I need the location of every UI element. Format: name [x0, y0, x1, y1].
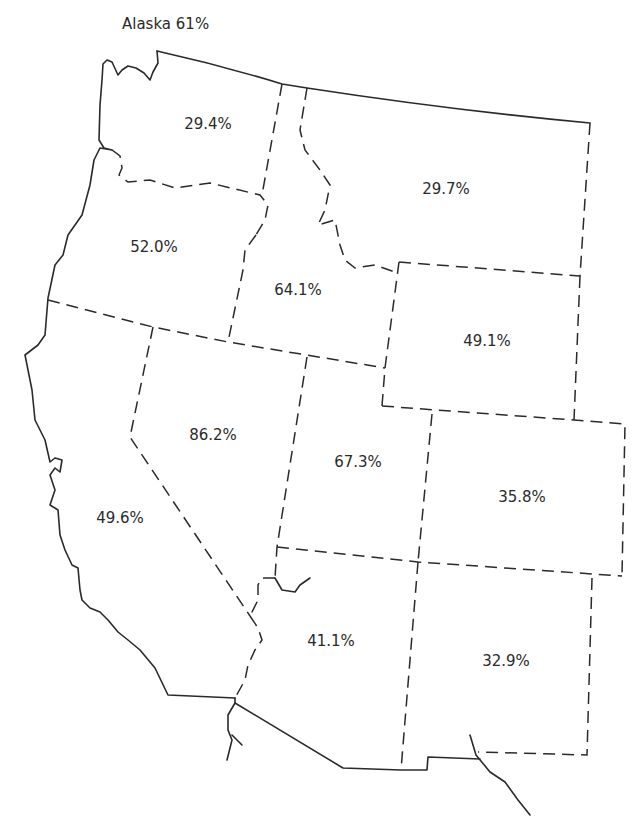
mexico-border	[235, 698, 480, 770]
id-wy-border	[382, 262, 399, 406]
colorado-value: 35.8%	[498, 488, 546, 506]
or-id-border	[228, 235, 256, 342]
ut-co-border	[418, 414, 432, 562]
alaska-label: Alaska 61%	[122, 15, 209, 33]
id-mt-border	[300, 88, 395, 272]
utah-value: 67.3%	[334, 453, 382, 471]
nevada-value: 86.2%	[189, 426, 237, 444]
washington-value: 29.4%	[184, 115, 232, 133]
colorado-river-south	[227, 703, 242, 760]
idaho-value: 64.1%	[274, 281, 322, 299]
four-corners-line	[277, 547, 622, 576]
arizona-value: 41.1%	[307, 632, 355, 650]
az-nm-border	[401, 562, 418, 770]
nv-az-border	[250, 578, 275, 616]
ca-nv-border	[130, 327, 250, 616]
wa-or-border	[112, 150, 268, 235]
canada-border	[157, 51, 590, 123]
ca-az-river-border	[235, 616, 262, 698]
montana-value: 29.7%	[422, 180, 470, 198]
wy-ne-border	[574, 276, 580, 420]
oregon-value: 52.0%	[130, 238, 178, 256]
new-mexico-value: 32.9%	[482, 652, 530, 670]
california-value: 49.6%	[96, 509, 144, 527]
rio-grande	[470, 735, 530, 815]
western-states-map	[0, 0, 643, 828]
wa-id-border	[262, 84, 282, 195]
wyoming-value: 49.1%	[463, 332, 511, 350]
mt-wy-border	[399, 262, 580, 276]
nv-ut-border	[275, 357, 307, 578]
pacific-coastline	[25, 51, 235, 698]
or-ca-nv-border	[48, 300, 385, 368]
colorado-river-north	[275, 578, 310, 592]
mt-dakota-border	[580, 123, 590, 276]
